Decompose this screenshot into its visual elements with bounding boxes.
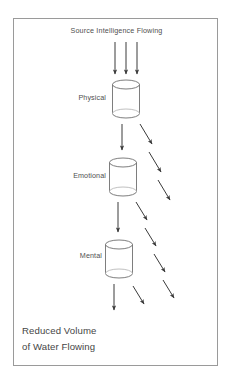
- diagram-figure: Source Intelligence Flowing Physical Emo…: [0, 0, 233, 382]
- footer-line-2: of Water Flowing: [22, 341, 95, 352]
- stage-label-physical: Physical: [28, 93, 106, 102]
- stage-label-emotional: Emotional: [20, 171, 106, 180]
- stage-label-mental: Mental: [24, 251, 102, 260]
- figure-border: [13, 18, 218, 366]
- diagram-title: Source Intelligence Flowing: [0, 26, 233, 35]
- footer-line-1: Reduced Volume: [22, 325, 96, 336]
